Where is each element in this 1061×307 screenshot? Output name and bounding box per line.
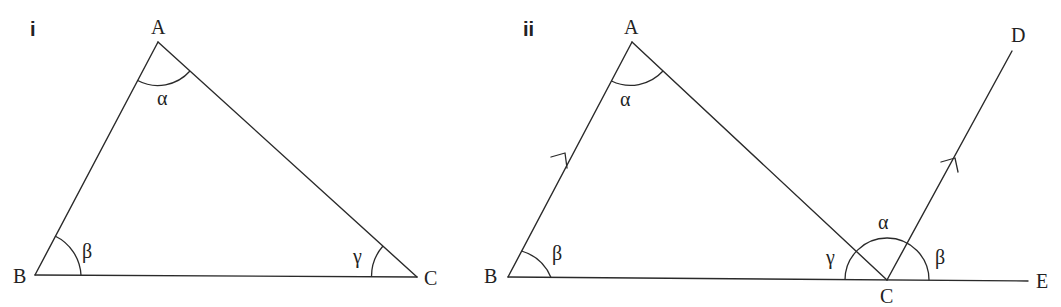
line-cd bbox=[887, 51, 1012, 280]
figure-ii: ii A B C D E α β γ α β bbox=[484, 16, 1048, 307]
angle-arc-b bbox=[522, 251, 552, 277]
vertex-label-e: E bbox=[1036, 270, 1048, 292]
angle-label-alpha-a: α bbox=[620, 88, 631, 110]
side-ab bbox=[508, 42, 632, 277]
vertex-label-b: B bbox=[13, 265, 26, 287]
angle-label-beta-b: β bbox=[552, 242, 562, 265]
line-be bbox=[508, 277, 1028, 281]
angle-label-alpha: α bbox=[157, 87, 168, 109]
side-ab bbox=[35, 42, 158, 275]
angle-label-beta-c: β bbox=[935, 246, 945, 269]
side-bc bbox=[35, 275, 417, 277]
angle-arc-a bbox=[612, 71, 664, 85]
angle-arc-c bbox=[371, 246, 383, 277]
vertex-label-c: C bbox=[880, 285, 893, 307]
angle-label-alpha-c: α bbox=[878, 211, 889, 233]
side-ac bbox=[158, 42, 417, 277]
vertex-label-d: D bbox=[1011, 24, 1025, 46]
angle-arc-b bbox=[55, 236, 81, 275]
parallel-arrow-ab-icon bbox=[551, 153, 567, 168]
angle-arc-c-semicircle bbox=[845, 238, 929, 280]
angle-arc-a bbox=[138, 71, 190, 85]
vertex-label-a: A bbox=[624, 16, 639, 38]
angle-label-gamma-c: γ bbox=[825, 246, 835, 269]
side-ac bbox=[632, 42, 887, 280]
angle-label-gamma: γ bbox=[352, 245, 362, 268]
angle-label-beta: β bbox=[82, 240, 92, 263]
vertex-label-b: B bbox=[484, 265, 497, 287]
diagram-canvas: i A B C α β γ ii A B C D E bbox=[0, 0, 1061, 307]
figure-label-i: i bbox=[30, 18, 36, 40]
vertex-label-a: A bbox=[151, 16, 166, 38]
figure-label-ii: ii bbox=[523, 18, 534, 40]
figure-i: i A B C α β γ bbox=[13, 16, 437, 289]
vertex-label-c: C bbox=[424, 267, 437, 289]
